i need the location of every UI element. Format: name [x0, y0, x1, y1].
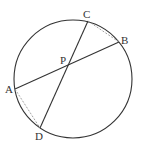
label-p: P — [60, 54, 66, 66]
chord-ab — [15, 42, 119, 89]
diagram-canvas: A B C D P — [0, 0, 142, 146]
label-b: B — [121, 34, 128, 46]
label-d: D — [35, 130, 43, 142]
label-c: C — [83, 8, 90, 20]
chord-diagram: A B C D P — [0, 0, 142, 146]
segment-ad-dashed — [15, 89, 40, 128]
label-a: A — [5, 83, 13, 95]
circle — [14, 20, 132, 138]
segment-cb-dashed — [88, 21, 119, 42]
